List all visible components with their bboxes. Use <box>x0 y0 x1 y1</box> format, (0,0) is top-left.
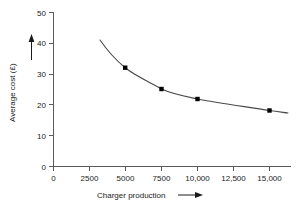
data-point-7500 <box>159 87 163 91</box>
y-tick-label-10: 10 <box>37 132 46 141</box>
x-tick-label-5000: 5000 <box>117 174 135 183</box>
chart-container: 50 40 30 20 10 0 0 2500 5000 7500 10,000… <box>0 0 298 211</box>
y-tick-label-50: 50 <box>37 9 46 18</box>
y-tick-label-20: 20 <box>37 101 46 110</box>
y-tick-label-30: 30 <box>37 70 46 79</box>
data-point-10000 <box>195 97 199 101</box>
right-arrow-icon <box>178 192 203 198</box>
x-tick-label-10000: 10,000 <box>185 174 210 183</box>
x-tick-label-12500: 12,500 <box>221 174 246 183</box>
data-point-5000 <box>123 66 127 70</box>
y-tick-label-40: 40 <box>37 39 46 48</box>
x-axis-tick-labels: 0 2500 5000 7500 10,000 12,500 15,000 <box>51 174 282 183</box>
x-tick-label-2500: 2500 <box>81 174 99 183</box>
y-tick-label-0: 0 <box>42 163 47 172</box>
x-axis-title: Charger production <box>97 191 165 200</box>
y-axis-ticks <box>49 13 54 167</box>
x-axis-ticks <box>54 167 270 172</box>
y-axis-tick-labels: 50 40 30 20 10 0 <box>37 9 46 172</box>
data-point-15000 <box>267 108 271 112</box>
x-tick-label-15000: 15,000 <box>257 174 282 183</box>
y-axis-title: Average cost (£) <box>8 63 17 122</box>
data-markers <box>123 66 272 113</box>
x-tick-label-7500: 7500 <box>153 174 171 183</box>
average-cost-curve <box>100 40 288 113</box>
x-tick-label-0: 0 <box>51 174 56 183</box>
up-arrow-icon <box>29 34 35 60</box>
chart-plot-area: 50 40 30 20 10 0 0 2500 5000 7500 10,000… <box>0 0 298 211</box>
